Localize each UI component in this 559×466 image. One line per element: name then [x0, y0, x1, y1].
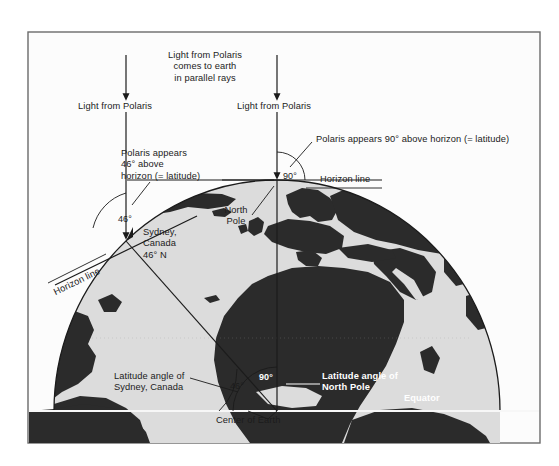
- label-light-parallel: Light from Polaris comes to earth in par…: [147, 50, 263, 84]
- diagram-graphics: [0, 0, 559, 466]
- angle-label-center-90: 90°: [259, 372, 273, 383]
- angle-label-center-46: 46°: [230, 381, 244, 392]
- label-light-right: Light from Polaris: [237, 101, 311, 112]
- angle-label-sydney-46: 46°: [118, 214, 132, 225]
- label-horizon-line-top: Horizon line: [320, 174, 370, 185]
- diagram-canvas: Light from Polaris comes to earth in par…: [0, 0, 559, 466]
- label-center-of-earth: Center of Earth: [216, 415, 280, 426]
- label-polaris-46-note: Polaris appears 46° above horizon (= lat…: [121, 148, 200, 182]
- angle-label-pole-90: 90°: [283, 171, 297, 182]
- label-polaris-90-note: Polaris appears 90° above horizon (= lat…: [316, 134, 509, 145]
- label-lat-angle-north-pole: Latitude angle of North Pole: [322, 371, 398, 394]
- label-equator: Equator: [404, 393, 440, 404]
- label-north-pole: North Pole: [214, 205, 258, 228]
- label-sydney: Sydney, Canada 46° N: [143, 227, 177, 261]
- label-light-left: Light from Polaris: [78, 101, 152, 112]
- label-lat-angle-sydney: Latitude angle of Sydney, Canada: [114, 371, 184, 394]
